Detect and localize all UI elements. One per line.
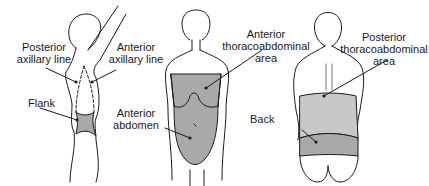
label-line: abdomen [108, 119, 164, 131]
diagram-drawing [0, 0, 429, 186]
label-line: Back [250, 113, 274, 125]
label-anterior-thoracoabdominal-area: Anterior thoracoabdominal area [220, 28, 312, 64]
lateral-figure [66, 6, 126, 182]
label-posterior-thoracoabdominal-area: Posterior thoracoabdominal area [338, 31, 429, 67]
label-line: Posterior [12, 41, 76, 53]
label-line: thoracoabdominal [338, 43, 429, 55]
label-line: Flank [28, 97, 55, 109]
label-line: axillary line [104, 53, 168, 65]
label-line: Posterior [338, 31, 429, 43]
label-posterior-axillary-line: Posterior axillary line [12, 41, 76, 65]
label-anterior-abdomen: Anterior abdomen [108, 107, 164, 131]
label-flank: Flank [28, 97, 55, 109]
label-back: Back [250, 113, 274, 125]
label-anterior-axillary-line: Anterior axillary line [104, 41, 168, 65]
label-line: Anterior [104, 41, 168, 53]
label-line: area [338, 55, 429, 67]
label-line: thoracoabdominal [220, 40, 312, 52]
label-line: axillary line [12, 53, 76, 65]
label-line: Anterior [108, 107, 164, 119]
label-line: area [220, 52, 312, 64]
label-line: Anterior [220, 28, 312, 40]
torso-regions-diagram: Posterior axillary line Anterior axillar… [0, 0, 429, 186]
